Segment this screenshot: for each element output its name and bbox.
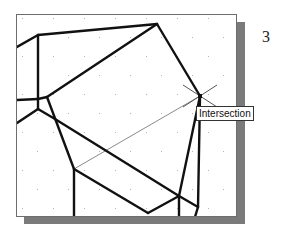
object-line[interactable] [47, 97, 74, 169]
object-line[interactable] [157, 24, 200, 96]
object-line[interactable] [17, 35, 38, 47]
object-line[interactable] [38, 97, 47, 99]
step-number: 3 [262, 28, 270, 46]
construction-lines [74, 96, 200, 169]
object-line[interactable] [179, 196, 198, 207]
object-line[interactable] [38, 24, 157, 35]
object-line[interactable] [47, 24, 157, 97]
object-lines[interactable] [17, 24, 200, 217]
object-line[interactable] [17, 109, 38, 123]
snap-tooltip: Intersection [196, 106, 254, 121]
object-line[interactable] [195, 207, 198, 217]
object-line[interactable] [148, 196, 179, 213]
object-line[interactable] [17, 99, 38, 100]
object-line[interactable] [74, 169, 148, 213]
